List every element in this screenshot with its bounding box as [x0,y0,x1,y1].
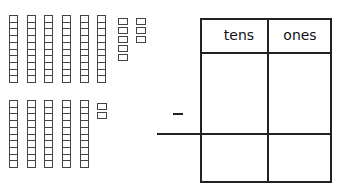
table-top-border [200,18,332,20]
tens-rod [62,15,71,83]
tens-rod [27,100,36,168]
tens-rod [97,15,106,83]
tens-rod [9,15,18,83]
ones-cube [136,36,146,43]
tens-rod [9,100,18,168]
ones-cube [118,27,128,34]
tens-rod [27,15,36,83]
header-tens: tens [214,27,264,43]
cell-answer-ones[interactable] [269,135,330,181]
ones-cube [136,27,146,34]
minus-sign [173,113,183,115]
table-bottom-border [200,181,332,183]
tens-rod [80,100,89,168]
ones-cube [118,36,128,43]
ones-cube [118,54,128,61]
ones-cube [97,112,107,119]
ones-cube [136,18,146,25]
cell-answer-tens[interactable] [202,135,267,181]
header-ones: ones [269,27,331,43]
ones-cube [97,103,107,110]
tens-rod [44,15,53,83]
cell-row1-tens[interactable] [202,54,267,133]
ones-cube [118,45,128,52]
ones-cube [118,18,128,25]
tens-rod [44,100,53,168]
tens-rod [80,15,89,83]
cell-row1-ones[interactable] [269,54,330,133]
tens-rod [62,100,71,168]
